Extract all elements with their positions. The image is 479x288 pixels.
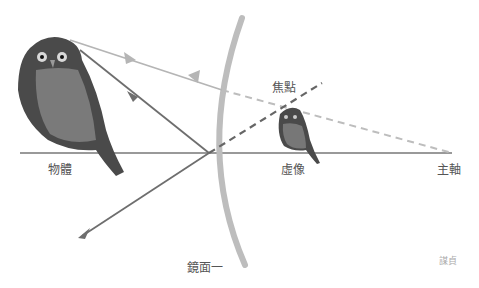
image-owl	[279, 108, 320, 164]
arrow-icon	[78, 228, 90, 239]
arrow-icon	[124, 52, 136, 64]
mirror-label: 鏡面一	[187, 258, 223, 275]
object-owl	[18, 37, 124, 176]
ray-diagram	[0, 0, 479, 288]
principal-axis-label: 主軸	[437, 160, 461, 177]
convex-mirror	[219, 18, 245, 265]
object-label: 物體	[48, 160, 72, 177]
image-label: 虛像	[281, 160, 305, 177]
focus-label: 焦點	[272, 78, 296, 95]
virtual-ray-light	[222, 90, 452, 153]
reflected-ray-dark	[82, 153, 209, 236]
signature: 謀貞	[439, 254, 457, 267]
incident-ray-light	[70, 40, 222, 90]
